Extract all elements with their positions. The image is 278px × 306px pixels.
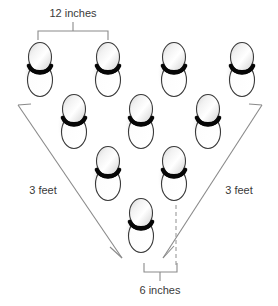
left-rule-start-tick <box>18 104 31 105</box>
plant-row-3 <box>91 147 187 201</box>
bottom-spacing-label: 6 inches <box>140 284 181 296</box>
top-measurement-bracket <box>38 22 108 40</box>
right-rule-start-tick <box>249 104 262 105</box>
plant-row-1 <box>23 43 255 97</box>
plant <box>191 95 221 149</box>
plant-row-4 <box>124 199 154 253</box>
diagram-canvas: 12 inches 3 feet 3 feet <box>0 0 278 306</box>
planting-diagram: 12 inches 3 feet 3 feet <box>0 0 278 306</box>
right-side-label: 3 feet <box>225 184 253 196</box>
plant <box>57 95 87 149</box>
left-side-label: 3 feet <box>29 184 57 196</box>
plant <box>91 43 121 97</box>
right-rule-end-tick <box>163 246 174 258</box>
plant <box>124 95 154 149</box>
plant <box>157 147 187 201</box>
plant <box>124 199 154 253</box>
plant <box>23 43 53 97</box>
bottom-measurement-bracket <box>144 263 177 281</box>
top-spacing-label: 12 inches <box>49 7 97 19</box>
plant <box>91 147 121 201</box>
plant <box>225 43 255 97</box>
plant <box>157 43 187 97</box>
plant-row-2 <box>57 95 221 149</box>
